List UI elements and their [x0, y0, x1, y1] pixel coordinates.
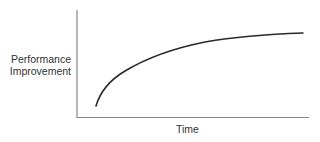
performance-curve [96, 33, 303, 106]
y-axis-label: Performance Improvement [10, 53, 71, 77]
y-axis-label-line-2: Improvement [10, 65, 71, 77]
y-axis-label-line-1: Performance [10, 53, 71, 65]
x-axis-label: Time [176, 123, 199, 135]
